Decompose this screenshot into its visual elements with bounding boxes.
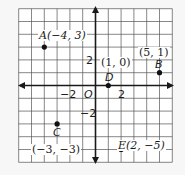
y-tick-label-2: 2 xyxy=(86,55,93,66)
point-b-label: B xyxy=(155,59,163,70)
point-d-coord-label: (1, 0) xyxy=(100,57,132,68)
origin-label: O xyxy=(84,89,93,100)
coordinate-plane-figure: A(−4, 3) (5, 1) B C (−3, −3) (1, 0) D E(… xyxy=(0,0,185,175)
x-tick-label-neg2: −2 xyxy=(60,89,76,100)
point-c-label: C xyxy=(53,127,61,138)
point-d-label: D xyxy=(105,72,113,83)
point-b-coord-label: (5, 1) xyxy=(138,47,170,58)
point-a-label: A(−4, 3) xyxy=(38,30,87,41)
point-a xyxy=(42,45,47,50)
x-tick-label-2: 2 xyxy=(118,89,125,100)
point-c-coord-label: (−3, −3) xyxy=(31,144,81,155)
y-tick-label-neg2: −2 xyxy=(80,108,96,119)
point-e-label: E(2, −5) xyxy=(117,140,166,151)
